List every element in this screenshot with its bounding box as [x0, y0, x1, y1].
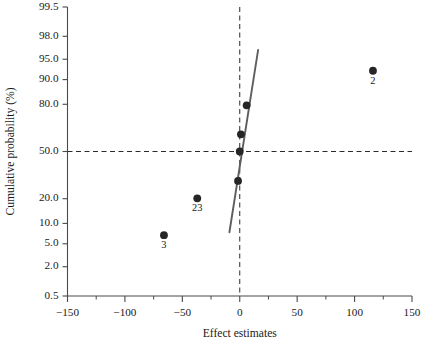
x-tick-label: 150	[404, 306, 421, 318]
data-point-label: 23	[192, 202, 202, 213]
y-tick-label: 98.0	[39, 29, 59, 41]
y-tick-label: 0.5	[45, 289, 59, 301]
normal-probability-plot-figure: 0.52.05.010.020.050.080.090.095.098.099.…	[0, 0, 427, 355]
x-tick-label: 0	[237, 306, 243, 318]
y-tick-label: 10.0	[39, 216, 59, 228]
x-tick-label: −100	[113, 306, 136, 318]
y-tick-label: 5.0	[45, 236, 59, 248]
y-tick-label: 2.0	[45, 259, 59, 271]
x-axis-title: Effect estimates	[203, 327, 278, 340]
y-tick-label: 50.0	[39, 144, 59, 156]
data-point	[236, 148, 244, 156]
data-point	[243, 101, 251, 109]
data-point	[369, 67, 377, 75]
data-point-label: 3	[161, 239, 166, 250]
x-tick-label: −50	[174, 306, 192, 318]
normal-fit-line	[229, 50, 258, 232]
chart-canvas: 0.52.05.010.020.050.080.090.095.098.099.…	[0, 0, 427, 355]
y-tick-label: 99.5	[39, 0, 59, 12]
y-axis-title: Cumulative probability (%)	[4, 87, 17, 215]
data-point	[234, 177, 242, 185]
data-point	[160, 231, 168, 239]
data-point-label: 2	[370, 75, 375, 86]
data-point	[237, 130, 245, 138]
y-tick-label: 95.0	[39, 52, 59, 64]
x-tick-label: −150	[56, 306, 79, 318]
x-tick-label: 50	[292, 306, 304, 318]
data-point	[193, 194, 201, 202]
y-tick-label: 90.0	[39, 72, 59, 84]
x-tick-label: 100	[346, 306, 363, 318]
y-tick-label: 20.0	[39, 191, 59, 203]
y-tick-label: 80.0	[39, 97, 59, 109]
